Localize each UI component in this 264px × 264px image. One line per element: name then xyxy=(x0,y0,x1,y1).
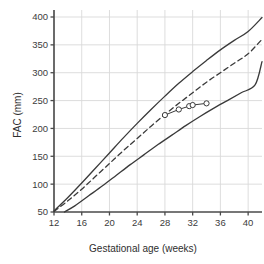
x-tick-label: 28 xyxy=(160,217,171,228)
data-point-marker xyxy=(176,107,181,112)
y-tick-label: 100 xyxy=(32,179,48,190)
y-tick-label: 300 xyxy=(32,67,48,78)
x-tick-label: 16 xyxy=(76,217,87,228)
x-tick-label: 32 xyxy=(187,217,198,228)
data-point-marker xyxy=(204,101,209,106)
data-point-marker xyxy=(162,112,167,117)
chart-canvas: 1216202428323640 50100150200250300350400… xyxy=(0,0,264,264)
x-tick-label: 40 xyxy=(243,217,254,228)
fac-growth-chart: 1216202428323640 50100150200250300350400… xyxy=(0,0,264,264)
y-tick-label: 350 xyxy=(32,39,48,50)
x-tick-label: 20 xyxy=(104,217,115,228)
y-tick-label: 50 xyxy=(37,206,48,217)
data-point-marker xyxy=(190,102,195,107)
x-tick-label: 36 xyxy=(215,217,226,228)
y-tick-label: 150 xyxy=(32,151,48,162)
x-axis-title: Gestational age (weeks) xyxy=(89,243,197,254)
x-tick-label: 24 xyxy=(132,217,143,228)
y-tick-label: 200 xyxy=(32,123,48,134)
y-tick-label: 250 xyxy=(32,95,48,106)
y-tick-label: 400 xyxy=(32,11,48,22)
x-tick-label: 12 xyxy=(49,217,60,228)
y-axis-title: FAC (mm) xyxy=(12,92,23,138)
